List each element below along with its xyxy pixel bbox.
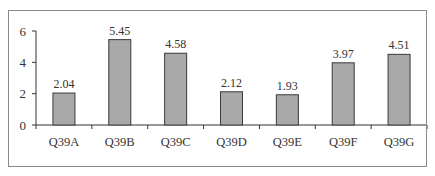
chart-frame [8,10,427,167]
chart-container: 0246 Q39AQ39BQ39CQ39DQ39EQ39FQ39G 2.045.… [0,0,435,176]
